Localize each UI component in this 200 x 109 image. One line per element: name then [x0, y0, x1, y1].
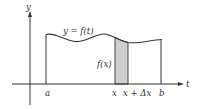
diagram-canvas: y t y = f(t) f(x) a x x + Δx b — [0, 0, 200, 109]
tick-label-a: a — [45, 88, 50, 98]
t-axis-label: t — [186, 79, 190, 89]
tick-label-x-plus-dx: x + Δx — [123, 88, 151, 98]
curve-label: y = f(t) — [62, 26, 94, 36]
tick-label-x: x — [112, 88, 117, 98]
y-axis-label: y — [25, 2, 31, 12]
strip-height-label: f(x) — [96, 59, 112, 69]
area-under-curve-diagram: y t y = f(t) f(x) a x x + Δx b — [0, 0, 200, 109]
t-axis-arrow-icon — [178, 82, 184, 86]
shaded-strip — [115, 38, 128, 85]
tick-label-b: b — [159, 88, 164, 98]
